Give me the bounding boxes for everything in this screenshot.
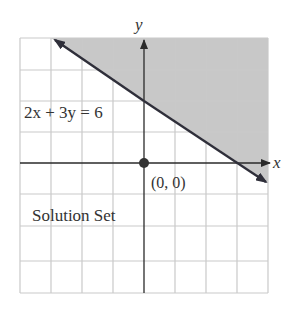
solution-set-label: Solution Set [32,206,116,225]
inequality-graph: y x 2x + 3y = 6 (0, 0) Solution Set [0,0,299,309]
x-axis-label: x [272,153,281,172]
y-axis-label: y [133,15,143,34]
origin-point [139,158,149,168]
origin-label: (0, 0) [151,174,186,192]
equation-label: 2x + 3y = 6 [24,103,103,122]
